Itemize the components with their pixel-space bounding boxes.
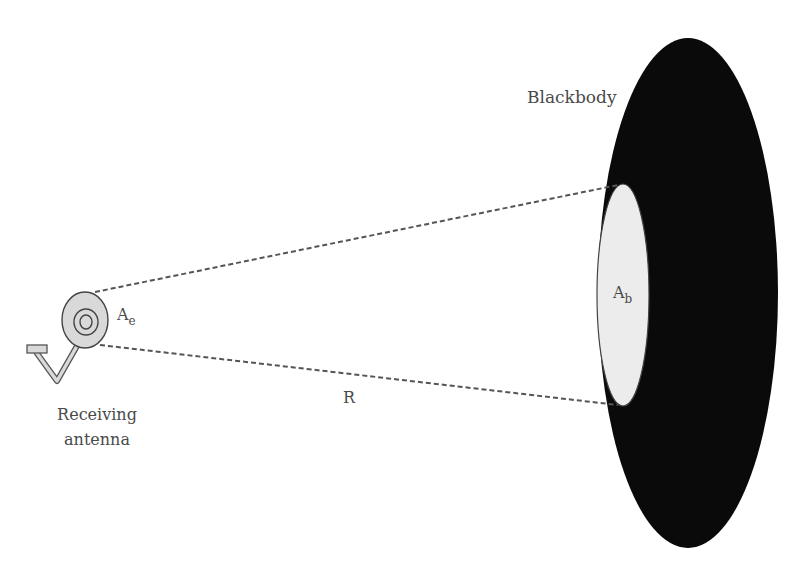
antenna-feed <box>27 345 47 353</box>
antenna-dish <box>62 292 108 348</box>
blackbody-antenna-diagram: Blackbody Receiving antenna R Ae Ab <box>0 0 798 576</box>
distance-label: R <box>343 388 356 407</box>
antenna-icon <box>27 292 108 381</box>
antenna-area-label: Ae <box>116 305 136 328</box>
receiving-label-line1: Receiving <box>57 405 137 424</box>
receiving-label-line2: antenna <box>64 430 130 449</box>
blackbody-label: Blackbody <box>527 87 617 107</box>
upper-sightline <box>95 185 618 292</box>
lower-sightline <box>100 345 618 405</box>
